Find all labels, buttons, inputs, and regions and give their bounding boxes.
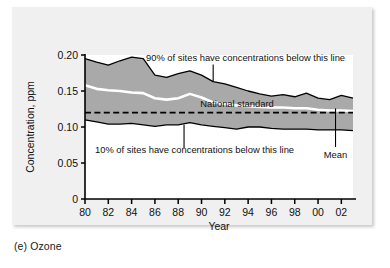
x-tick-label: 94 <box>242 206 254 218</box>
y-tick-label: 0.20 <box>58 49 79 61</box>
x-tick-label: 92 <box>219 206 231 218</box>
y-axis-title: Concentration, ppm <box>24 81 36 173</box>
annotation-p90-label: 90% of sites have concentrations below t… <box>146 52 345 63</box>
x-tick-label: 00 <box>312 206 324 218</box>
x-tick-label: 86 <box>149 206 161 218</box>
y-tick-label: 0 <box>72 193 78 205</box>
x-tick-label: 02 <box>336 206 348 218</box>
annotation-p10-label: 10% of sites have concentrations below t… <box>95 144 294 155</box>
ozone-figure: 0.200.150.100.05080828486889092949698000… <box>0 0 390 268</box>
x-tick-label: 98 <box>289 206 301 218</box>
x-tick-label: 82 <box>102 206 114 218</box>
x-tick-label: 96 <box>266 206 278 218</box>
y-tick-label: 0.15 <box>58 85 79 97</box>
x-tick-label: 90 <box>196 206 208 218</box>
ozone-chart: 0.200.150.100.05080828486889092949698000… <box>0 0 390 268</box>
y-tick-label: 0.10 <box>58 121 79 133</box>
x-tick-label: 80 <box>79 206 91 218</box>
x-axis-title: Year <box>208 220 230 232</box>
annotation-national-standard-label: National standard <box>200 98 274 109</box>
x-tick-label: 88 <box>172 206 184 218</box>
annotation-mean-label: Mean <box>324 149 347 160</box>
figure-caption: (e) Ozone <box>14 240 62 252</box>
x-tick-label: 84 <box>126 206 138 218</box>
y-tick-label: 0.05 <box>58 157 79 169</box>
